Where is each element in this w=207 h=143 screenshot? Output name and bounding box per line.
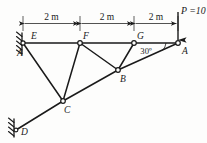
node-label-A-left: A (16, 48, 23, 58)
support-pin-D (9, 118, 18, 137)
figure-canvas: 2 m 2 m 2 m (0, 0, 207, 143)
joint-B (116, 68, 121, 73)
node-label-F: F (82, 31, 89, 41)
node-label-A: A (181, 46, 188, 56)
support-left-hatch-2 (17, 37, 23, 42)
support-D-pin-circle (14, 128, 18, 132)
node-label-G: G (137, 31, 144, 41)
truss-diagram: 2 m 2 m 2 m (0, 0, 207, 143)
load-label-P: P =10 kN (180, 5, 207, 16)
dimension-label-1: 2 m (44, 12, 59, 22)
support-D-hatch-1 (9, 118, 15, 123)
angle-label-30: 30º (140, 46, 152, 56)
node-labels: E A F G A B C D (16, 31, 188, 137)
member-FB (80, 43, 118, 70)
joint-C (61, 99, 66, 104)
joint-F (78, 41, 83, 46)
node-label-D: D (20, 127, 28, 137)
support-left-hatch-1 (17, 32, 23, 37)
node-label-E: E (30, 31, 37, 41)
node-label-B: B (120, 74, 126, 84)
dimension-line-group: 2 m 2 m 2 m (23, 12, 178, 31)
member-CD (16, 101, 63, 130)
joint-A (176, 41, 181, 46)
dimension-label-3: 2 m (149, 12, 164, 22)
support-D-hatch-2 (9, 123, 15, 128)
support-D-hatch-3 (9, 127, 15, 132)
truss-members (16, 43, 178, 130)
dimension-label-2: 2 m (100, 12, 115, 22)
node-label-C: C (64, 105, 71, 115)
member-EC (23, 43, 63, 101)
support-D-hatch-4 (9, 132, 15, 137)
joint-G (132, 41, 137, 46)
support-left-pin-circle (21, 41, 25, 45)
load-arrow-group: P =10 kN (178, 5, 207, 40)
